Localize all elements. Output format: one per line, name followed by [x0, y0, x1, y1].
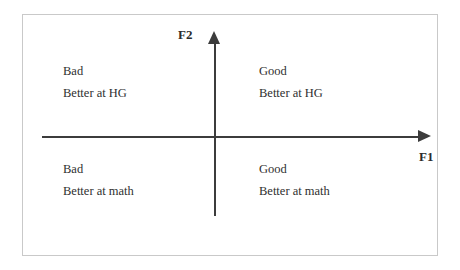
y-axis-arrowhead-icon: [208, 31, 220, 44]
x-axis-label: F1: [419, 149, 433, 165]
quadrant-top-left: Bad Better at HG: [63, 60, 127, 104]
diagram-canvas: F2 F1 Bad Better at HG Good Better at HG…: [0, 0, 460, 270]
x-axis-arrowhead-icon: [418, 130, 431, 142]
diagram-frame: [22, 14, 438, 256]
quadrant-bottom-left: Bad Better at math: [63, 158, 134, 202]
quadrant-bottom-left-line1: Bad: [63, 158, 134, 180]
quadrant-bottom-right-line2: Better at math: [259, 180, 330, 202]
quadrant-top-left-line2: Better at HG: [63, 82, 127, 104]
quadrant-bottom-right: Good Better at math: [259, 158, 330, 202]
quadrant-top-left-line1: Bad: [63, 60, 127, 82]
y-axis-label: F2: [178, 27, 192, 43]
quadrant-top-right-line2: Better at HG: [259, 82, 323, 104]
quadrant-top-right: Good Better at HG: [259, 60, 323, 104]
y-axis-line: [214, 42, 216, 216]
x-axis-line: [42, 136, 422, 138]
quadrant-bottom-left-line2: Better at math: [63, 180, 134, 202]
quadrant-bottom-right-line1: Good: [259, 158, 330, 180]
quadrant-top-right-line1: Good: [259, 60, 323, 82]
